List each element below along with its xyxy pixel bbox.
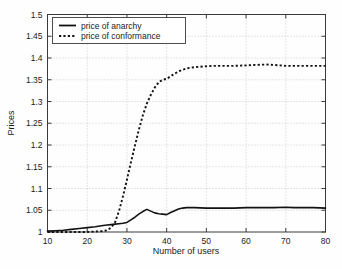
x-tick-label: 70 [281, 236, 291, 246]
legend-label-anarchy: price of anarchy [81, 21, 142, 31]
x-tick-label: 20 [82, 236, 92, 246]
y-tick-label: 1.25 [26, 118, 43, 128]
y-axis-title: Prices [6, 110, 16, 136]
y-tick-label: 1.1 [31, 184, 43, 194]
x-tick-label: 30 [122, 236, 132, 246]
y-tick-label: 1.2 [31, 140, 43, 150]
y-tick-label: 1.4 [31, 53, 43, 63]
line-chart-canvas: 11.051.11.151.21.251.31.351.41.451.5 102… [0, 0, 342, 269]
y-tick-label: 1.45 [26, 31, 43, 41]
x-tick-label: 50 [202, 236, 212, 246]
x-tick-label: 60 [241, 236, 251, 246]
y-tick-label: 1.5 [31, 10, 43, 20]
series-solid [48, 207, 326, 231]
legend-label-conformance: price of conformance [81, 31, 161, 41]
y-tick-label: 1.35 [26, 75, 43, 85]
x-tick-label: 80 [321, 236, 331, 246]
data-series [48, 65, 326, 232]
x-tick-labels: 1020304050607080 [43, 236, 331, 246]
y-tick-label: 1.15 [26, 162, 43, 172]
legend: price of anarchy price of conformance [53, 18, 186, 44]
x-axis-title: Number of users [153, 246, 220, 256]
y-tick-label: 1.3 [31, 97, 43, 107]
x-tick-label: 10 [43, 236, 53, 246]
chart-figure: 11.051.11.151.21.251.31.351.41.451.5 102… [0, 0, 342, 269]
y-tick-labels: 11.051.11.151.21.251.31.351.41.451.5 [26, 10, 43, 238]
y-tick-label: 1.05 [26, 205, 43, 215]
grid-lines [48, 15, 326, 233]
x-tick-label: 40 [162, 236, 172, 246]
